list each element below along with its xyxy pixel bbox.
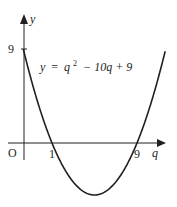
equation-equals: = (51, 60, 58, 74)
x-tick-label-9: 9 (134, 147, 140, 161)
equation-rest: − 10q + 9 (83, 60, 132, 74)
x-axis-arrow-icon (157, 139, 166, 147)
y-axis-label: y (29, 12, 36, 26)
x-axis-label: q (152, 146, 158, 160)
equation-label: y = q 2 − 10q + 9 (39, 55, 132, 74)
equation-var: q (64, 60, 70, 74)
equation-lhs: y (39, 60, 46, 74)
y-axis-arrow-icon (20, 14, 28, 24)
origin-label: O (8, 146, 17, 160)
equation-exponent: 2 (73, 59, 77, 68)
x-tick-label-1: 1 (49, 147, 55, 161)
y-tick-label-9: 9 (8, 42, 14, 56)
graph: y 9 O 1 9 q y = q 2 − 10q + 9 (0, 0, 177, 207)
